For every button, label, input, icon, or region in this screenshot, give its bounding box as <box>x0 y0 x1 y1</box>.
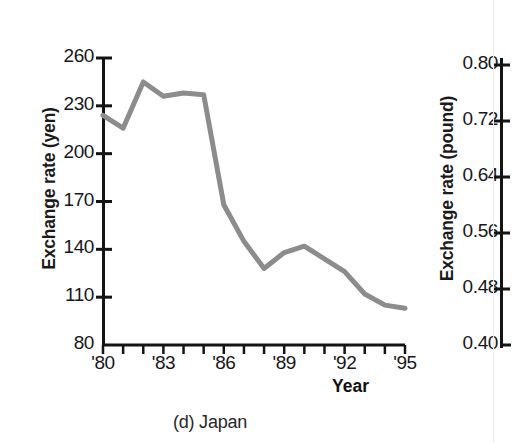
y-tick-label: 80 <box>40 332 94 354</box>
y-tick-label: 230 <box>40 93 94 115</box>
x-tick-label: '86 <box>212 352 235 374</box>
y-tick-label: 140 <box>40 236 94 258</box>
y-tick-label: 260 <box>40 45 94 67</box>
y-axis-tick-labels-pound: 0.800.720.640.560.480.40 <box>420 0 498 443</box>
y-tick-label-pound: 0.48 <box>422 276 498 298</box>
x-tick-label: '80 <box>91 352 114 374</box>
page-edge-divider <box>493 0 494 443</box>
y-tick-label-pound: 0.64 <box>422 164 498 186</box>
y-tick-label-pound: 0.56 <box>422 220 498 242</box>
plot-area-japan <box>103 50 405 350</box>
y-tick-label: 170 <box>40 189 94 211</box>
x-axis-title: Year <box>332 376 369 397</box>
figure-exchange-rates: Exchange rate (yen) 26023020017014011080… <box>0 0 526 443</box>
y-tick-label-pound: 0.80 <box>422 52 498 74</box>
chart-panel-pound-partial: Exchange rate (pound) 0.800.720.640.560.… <box>404 0 526 443</box>
y-tick-label-pound: 0.40 <box>422 332 498 354</box>
x-tick-label: '92 <box>333 352 356 374</box>
x-tick-label: '89 <box>273 352 296 374</box>
axis-svg-pound <box>499 0 526 443</box>
y-tick-label: 200 <box>40 141 94 163</box>
figure-caption: (d) Japan <box>0 412 420 433</box>
line-chart-svg-japan <box>103 50 405 350</box>
y-tick-label: 110 <box>40 284 94 306</box>
chart-panel-japan: Exchange rate (yen) 26023020017014011080… <box>0 0 420 443</box>
y-tick-label-pound: 0.72 <box>422 108 498 130</box>
x-tick-label: '83 <box>152 352 175 374</box>
data-series-line-japan <box>103 82 405 308</box>
